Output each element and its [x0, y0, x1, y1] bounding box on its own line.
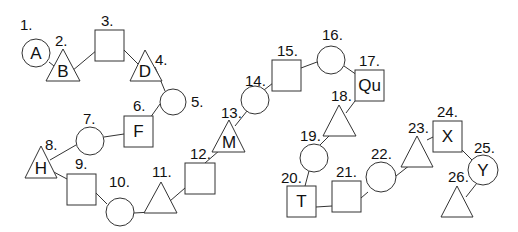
- square-shape: [272, 60, 301, 91]
- node-letter: Qu: [358, 76, 381, 95]
- connector-line: [466, 183, 477, 197]
- node-letter: A: [30, 44, 42, 63]
- node-letter: X: [442, 127, 453, 146]
- shape-nodes: A1.B2.3.D4.5.F6.7.H8.9.10.11.12.M13.14.1…: [20, 12, 498, 226]
- node-7: 7.: [76, 110, 104, 155]
- connector-line: [427, 137, 433, 140]
- node-number-label: 20.: [281, 169, 302, 186]
- node-number-label: 17.: [359, 52, 380, 69]
- circle-shape: [106, 198, 134, 226]
- connector-line: [301, 62, 317, 68]
- square-shape: [185, 163, 215, 194]
- node-26: 26.: [441, 168, 473, 217]
- connector-line: [104, 134, 124, 137]
- node-11: 11.: [144, 163, 177, 213]
- square-shape: [95, 30, 124, 61]
- circle-shape: [317, 46, 345, 74]
- node-number-label: 3.: [101, 12, 114, 29]
- circle-shape: [366, 162, 396, 192]
- node-number-label: 16.: [322, 26, 343, 43]
- connector-line: [305, 171, 309, 186]
- node-number-label: 13.: [221, 104, 242, 121]
- node-number-label: 12.: [190, 145, 211, 162]
- node-number-label: 2.: [55, 32, 68, 49]
- connector-line: [72, 50, 97, 71]
- node-number-label: 24.: [437, 103, 458, 120]
- node-letter: Y: [477, 161, 488, 180]
- node-3: 3.: [95, 12, 124, 61]
- triangle-shape: [441, 186, 473, 217]
- node-9: 9.: [67, 155, 96, 205]
- node-24: X24.: [433, 103, 462, 152]
- node-number-label: 5.: [191, 93, 204, 110]
- node-23: 23.: [401, 119, 433, 167]
- circle-shape: [300, 144, 328, 172]
- node-15: 15.: [272, 42, 301, 91]
- square-shape: [67, 174, 96, 205]
- node-letter: F: [133, 122, 143, 141]
- node-number-label: 11.: [152, 163, 172, 180]
- node-20: T20.: [281, 169, 316, 217]
- connector-line: [361, 192, 368, 198]
- node-number-label: 19.: [300, 127, 321, 144]
- node-number-label: 6.: [133, 97, 146, 114]
- node-number-label: 21.: [336, 163, 357, 180]
- node-number-label: 4.: [155, 51, 168, 68]
- node-number-label: 15.: [277, 42, 298, 59]
- node-number-label: 7.: [83, 110, 96, 127]
- connector-line: [49, 62, 54, 66]
- node-12: 12.: [185, 145, 215, 194]
- node-17: Qu17.: [355, 52, 384, 101]
- node-letter: B: [57, 62, 68, 81]
- connector-line: [96, 193, 107, 204]
- node-22: 22.: [366, 145, 396, 192]
- node-25: Y25.: [468, 139, 498, 185]
- connector-line: [170, 188, 185, 201]
- node-14: 14.: [241, 72, 269, 114]
- node-number-label: 23.: [408, 119, 429, 136]
- connector-line: [124, 50, 138, 64]
- triangle-shape: [323, 105, 356, 136]
- connector-line: [316, 206, 332, 207]
- node-6: F6.: [124, 97, 153, 147]
- node-number-label: 1.: [20, 16, 33, 33]
- node-1: A1.: [20, 16, 50, 67]
- node-number-label: 9.: [75, 155, 88, 172]
- circle-shape: [241, 86, 269, 114]
- circle-shape: [160, 89, 186, 115]
- node-16: 16.: [317, 26, 345, 74]
- node-21: 21.: [332, 163, 361, 212]
- node-number-label: 14.: [245, 72, 266, 89]
- node-18: 18.: [323, 87, 356, 136]
- pedigree-diagram: A1.B2.3.D4.5.F6.7.H8.9.10.11.12.M13.14.1…: [0, 0, 518, 232]
- node-8: H8.: [25, 136, 58, 178]
- node-number-label: 26.: [448, 168, 469, 185]
- node-number-label: 22.: [371, 145, 392, 162]
- node-number-label: 25.: [474, 139, 495, 156]
- node-5: 5.: [160, 89, 204, 115]
- triangle-shape: [144, 182, 177, 213]
- square-shape: [332, 181, 361, 212]
- node-letter: H: [35, 159, 47, 178]
- node-letter: D: [139, 62, 151, 81]
- node-4: D4.: [130, 50, 168, 81]
- node-letter: T: [296, 192, 306, 211]
- node-letter: M: [222, 133, 236, 152]
- node-number-label: 8.: [45, 136, 58, 153]
- circle-shape: [76, 127, 104, 155]
- triangle-shape: [401, 136, 433, 167]
- node-10: 10.: [106, 173, 134, 226]
- node-13: M13.: [212, 104, 245, 152]
- node-number-label: 10.: [109, 173, 130, 190]
- node-2: B2.: [46, 32, 80, 81]
- node-number-label: 18.: [331, 87, 352, 104]
